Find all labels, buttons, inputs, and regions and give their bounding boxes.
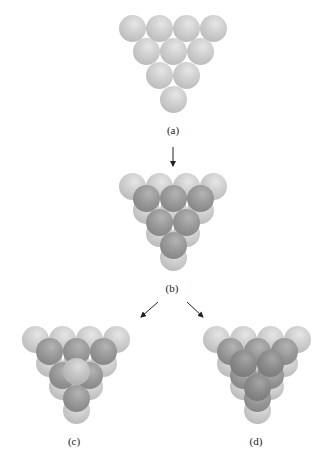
arrows [0, 0, 332, 473]
arrow-b-to-c [141, 302, 158, 317]
arrow-b-to-d [187, 302, 203, 317]
sphere-packing-figure: (a) (b) (c) (d) [0, 0, 332, 473]
